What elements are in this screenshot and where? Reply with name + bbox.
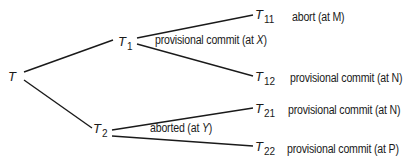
node-T2: T2	[93, 122, 108, 139]
edge-T1-T12	[137, 44, 253, 76]
edge-T2-T22	[112, 136, 253, 146]
status-T12: provisional commit (at N)	[290, 72, 402, 84]
edge-label-T1: provisional commit (at X)	[155, 34, 267, 46]
edge-label-T2: aborted (at Y)	[150, 122, 212, 134]
node-T11: T11	[255, 8, 274, 25]
edge-T-T2	[24, 80, 92, 128]
status-T22: provisional commit (at P)	[287, 143, 399, 155]
node-T1: T1	[118, 35, 133, 52]
node-T22: T22	[255, 140, 275, 157]
status-T11: abort (at M)	[292, 11, 344, 23]
node-T21: T21	[255, 102, 275, 119]
edge-T-T1	[24, 40, 113, 72]
status-T21: provisional commit (at N)	[288, 104, 400, 116]
node-T12: T12	[255, 70, 275, 87]
node-T: T	[8, 70, 16, 83]
